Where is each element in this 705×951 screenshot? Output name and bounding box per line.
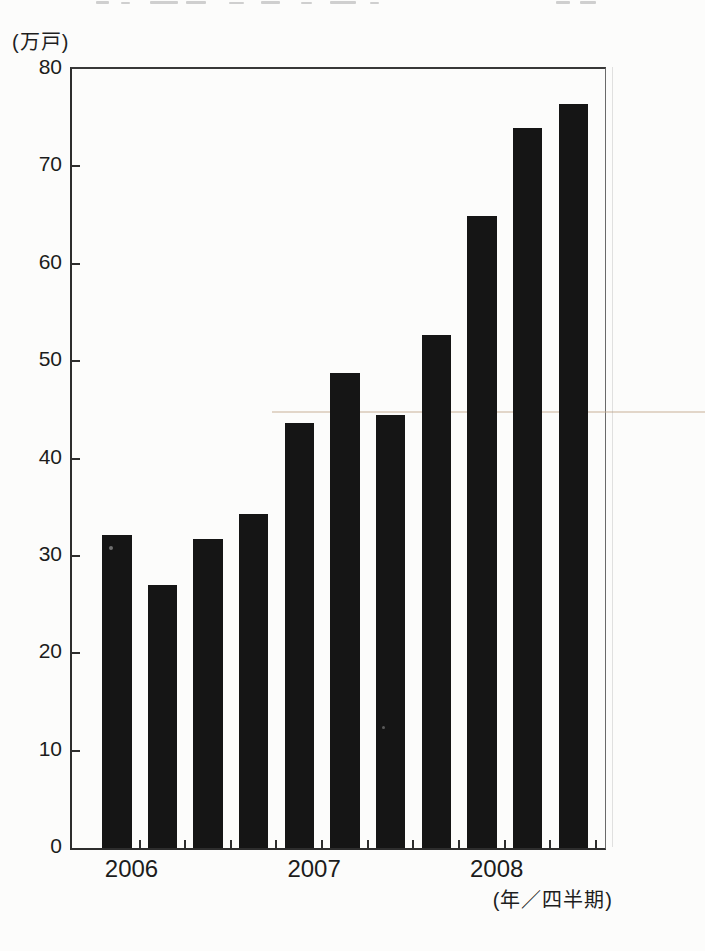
x-axis-year-label-2008: 2008	[442, 856, 552, 882]
y-tick-50	[72, 360, 80, 362]
x-tick-10	[549, 840, 551, 848]
y-tick-30	[72, 555, 80, 557]
x-tick-5	[321, 840, 323, 848]
y-axis-label-10: 10	[16, 737, 62, 761]
bar-2006-q2	[148, 585, 178, 848]
y-axis-label-40: 40	[16, 445, 62, 469]
y-tick-40	[72, 458, 80, 460]
y-axis-label-70: 70	[16, 152, 62, 176]
x-tick-4	[275, 840, 277, 848]
x-tick-3	[230, 840, 232, 848]
x-tick-2	[184, 840, 186, 848]
x-tick-6	[367, 840, 369, 848]
x-axis-year-label-2006: 2006	[77, 856, 187, 882]
bar-2007-q2	[330, 373, 360, 848]
bar-2006-q1	[102, 535, 132, 848]
y-tick-20	[72, 652, 80, 654]
scan-artifact-line	[612, 67, 613, 847]
y-tick-60	[72, 263, 80, 265]
y-axis-unit-label: (万戸)	[12, 31, 69, 53]
bar-2006-q3	[193, 539, 223, 848]
y-axis-label-60: 60	[16, 250, 62, 274]
bar-2008-q1	[467, 216, 497, 848]
x-tick-11	[595, 840, 597, 848]
x-axis-unit-label: (年／四半期)	[393, 889, 613, 911]
y-tick-10	[72, 750, 80, 752]
bar-2006-q4	[239, 514, 269, 848]
bar-2007-q4	[422, 335, 452, 848]
x-tick-8	[458, 840, 460, 848]
x-tick-1	[139, 840, 141, 848]
bar-2008-q3	[559, 104, 589, 848]
bar-2007-q1	[285, 423, 315, 848]
plot-area: 200620072008	[70, 67, 606, 850]
x-tick-9	[504, 840, 506, 848]
y-axis-label-0: 0	[16, 834, 62, 858]
y-axis-label-80: 80	[16, 55, 62, 79]
bar-2008-q2	[513, 128, 543, 848]
y-axis-label-30: 30	[16, 542, 62, 566]
x-axis-year-label-2007: 2007	[259, 856, 369, 882]
y-axis-label-20: 20	[16, 639, 62, 663]
y-tick-70	[72, 165, 80, 167]
y-axis-label-50: 50	[16, 347, 62, 371]
x-tick-7	[412, 840, 414, 848]
bar-2007-q3	[376, 415, 406, 848]
